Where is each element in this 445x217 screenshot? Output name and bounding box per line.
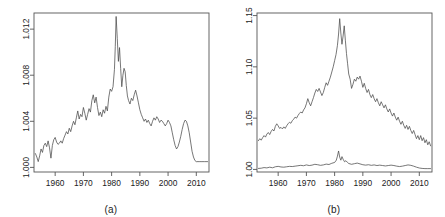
panel-b-ytick-label: 1.05 <box>244 110 254 127</box>
panel-a-xtick-label: 2010 <box>187 178 206 188</box>
panel-b-xtick-label: 1990 <box>354 178 373 188</box>
panel-a-xtick-label: 1980 <box>102 178 121 188</box>
panel-a-line-series-a <box>35 16 207 161</box>
panel-b-line-lower-series-b <box>258 151 430 169</box>
panel-b-ytick-label: 1.10 <box>244 58 254 75</box>
panel-a-xtick-label: 1960 <box>46 178 65 188</box>
panel-b-xtick-label: 1960 <box>269 178 288 188</box>
chart-svg-a: 1960197019801990200020101.0001.0041.0081… <box>0 0 222 217</box>
panel-a-ytick-label: 1.000 <box>21 157 31 178</box>
panel-b-xtick-label: 2010 <box>410 178 429 188</box>
chart-panel-a: 1960197019801990200020101.0001.0041.0081… <box>0 0 222 217</box>
panel-a-ytick-label: 1.008 <box>21 64 31 85</box>
panel-a-ytick-label: 1.004 <box>21 110 31 131</box>
panel-caption-a: (a) <box>0 204 222 215</box>
panel-b-line-upper-series-b <box>258 19 430 146</box>
chart-svg-b: 1960197019801990200020101.001.051.101.15 <box>223 0 445 217</box>
panel-caption-b: (b) <box>223 204 445 215</box>
panel-b-plot-frame <box>257 13 432 172</box>
panel-b-ytick-label: 1.00 <box>244 161 254 178</box>
panel-b-xtick-label: 2000 <box>382 178 401 188</box>
panel-a-xtick-label: 2000 <box>159 178 178 188</box>
chart-panel-b: 1960197019801990200020101.001.051.101.15… <box>223 0 445 217</box>
panel-a-xtick-label: 1970 <box>74 178 93 188</box>
panel-b-xtick-label: 1970 <box>297 178 316 188</box>
panel-a-xtick-label: 1990 <box>131 178 150 188</box>
panel-a-ytick-label: 1.012 <box>21 18 31 39</box>
panel-a-plot-frame <box>34 13 209 172</box>
panel-b-xtick-label: 1980 <box>325 178 344 188</box>
figure-container: 1960197019801990200020101.0001.0041.0081… <box>0 0 445 217</box>
panel-b-ytick-label: 1.15 <box>244 7 254 24</box>
